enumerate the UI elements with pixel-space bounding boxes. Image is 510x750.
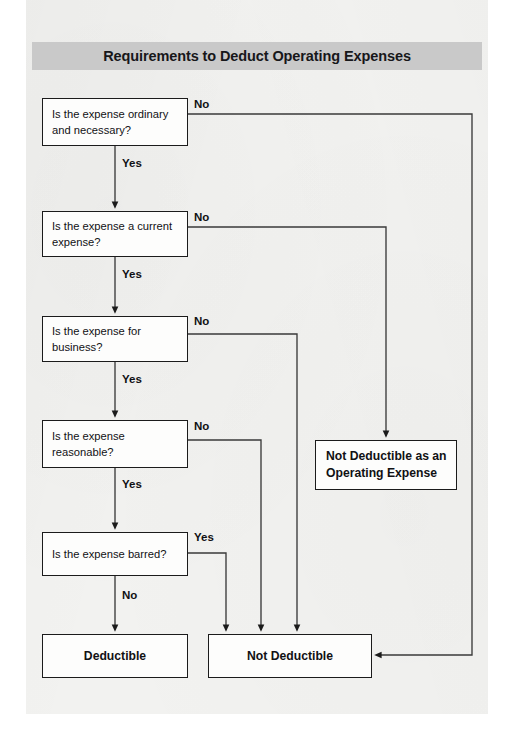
decision-node-ordinary[interactable]: Is the expense ordinary and necessary? <box>42 98 188 146</box>
edge-label-business-yes: Yes <box>122 373 142 385</box>
node-text-line: Deductible <box>84 648 146 665</box>
node-text-line: expense? <box>43 234 187 251</box>
node-text-line: business? <box>43 339 187 356</box>
edge-label-current-yes: Yes <box>122 268 142 280</box>
flowchart: Is the expense ordinary and necessary? I… <box>0 0 510 750</box>
edge-label-ordinary-no: No <box>194 98 209 110</box>
edge-label-business-no: No <box>194 315 209 327</box>
node-text-line: Is the expense a current <box>43 218 187 235</box>
node-text-line: Operating Expense <box>316 465 437 483</box>
node-text-line: Not Deductible <box>247 648 333 665</box>
edge-label-barred-no: No <box>122 589 137 601</box>
decision-node-current-expense[interactable]: Is the expense a current expense? <box>42 211 188 257</box>
node-text-line: Is the expense <box>43 428 187 445</box>
terminal-node-not-deductible-operating-expense[interactable]: Not Deductible as an Operating Expense <box>315 440 457 490</box>
decision-node-barred[interactable]: Is the expense barred? <box>42 532 188 576</box>
decision-node-business[interactable]: Is the expense for business? <box>42 316 188 362</box>
decision-node-reasonable[interactable]: Is the expense reasonable? <box>42 420 188 468</box>
edge-barred-yes <box>188 553 226 628</box>
edge-business-no <box>188 334 297 628</box>
edge-label-ordinary-yes: Yes <box>122 157 142 169</box>
node-text-line: Is the expense for <box>43 323 187 340</box>
node-text-line: Is the expense ordinary <box>43 106 187 123</box>
node-text-line: Not Deductible as an <box>316 448 447 466</box>
edge-label-barred-yes: Yes <box>194 531 214 543</box>
terminal-node-not-deductible[interactable]: Not Deductible <box>208 634 372 678</box>
edge-ordinary-no <box>188 114 472 655</box>
edge-label-reasonable-yes: Yes <box>122 478 142 490</box>
node-text-line: Is the expense barred? <box>43 546 187 563</box>
node-text-line: reasonable? <box>43 444 187 461</box>
terminal-node-deductible[interactable]: Deductible <box>42 634 188 678</box>
edge-label-reasonable-no: No <box>194 420 209 432</box>
node-text-line: and necessary? <box>43 122 187 139</box>
edge-current-no <box>188 227 386 434</box>
edge-label-current-no: No <box>194 211 209 223</box>
